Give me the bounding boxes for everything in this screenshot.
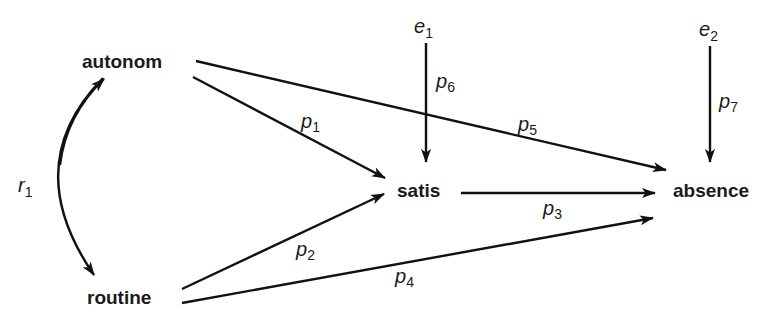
label-p1: p1 — [300, 110, 320, 135]
label-p4: p4 — [394, 265, 414, 290]
label-p6: p6 — [435, 70, 455, 95]
error-term-e1: e1 — [414, 15, 433, 41]
path-diagram: autonom routine satis absence e1 e2 p1 p… — [0, 0, 783, 327]
label-r1: r1 — [18, 174, 33, 200]
edge-p1-autonom-satis — [193, 77, 385, 178]
label-p3: p3 — [542, 197, 562, 222]
node-routine: routine — [87, 287, 151, 308]
node-absence: absence — [673, 180, 749, 201]
edge-p4-routine-absence — [182, 218, 653, 303]
edge-p2-routine-satis — [182, 194, 384, 289]
edge-r1-correlation-start — [60, 79, 104, 165]
label-p7: p7 — [718, 90, 738, 115]
error-term-e2: e2 — [699, 18, 718, 44]
node-satis: satis — [397, 180, 440, 201]
label-p5: p5 — [517, 113, 537, 138]
label-p2: p2 — [295, 238, 315, 263]
node-autonom: autonom — [82, 51, 162, 72]
